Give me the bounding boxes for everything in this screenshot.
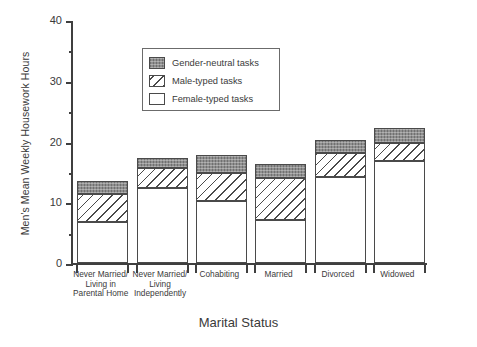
bar-stack[interactable] bbox=[374, 128, 425, 263]
legend-label: Female-typed tasks bbox=[172, 94, 253, 104]
bar-segment-female-typed[interactable] bbox=[315, 177, 366, 263]
legend-swatch-white-icon bbox=[149, 93, 165, 105]
bar-segment-female-typed[interactable] bbox=[255, 220, 306, 263]
y-tick-label: 10 bbox=[28, 196, 62, 208]
bar-stack[interactable] bbox=[137, 158, 188, 263]
category-label-line: Divorced bbox=[308, 270, 367, 280]
bar-segment-female-typed[interactable] bbox=[77, 222, 128, 263]
x-axis-category-label: Married bbox=[249, 270, 308, 280]
plot-area: Men's Mean Weekly Housework Hours 010203… bbox=[71, 22, 427, 265]
bar-segment-male-typed[interactable] bbox=[196, 173, 247, 201]
bar-segment-female-typed[interactable] bbox=[374, 161, 425, 263]
bar-stack[interactable] bbox=[196, 155, 247, 263]
legend-swatch-gray-stipple-icon bbox=[149, 57, 165, 69]
bar-segment-male-typed[interactable] bbox=[374, 143, 425, 161]
legend-swatch-diagonal-hatch-icon bbox=[149, 75, 165, 87]
bar-segment-gender-neutral[interactable] bbox=[255, 164, 306, 178]
bar-stack[interactable] bbox=[315, 140, 366, 263]
legend-item-gender-neutral: Gender-neutral tasks bbox=[149, 54, 273, 72]
chart-figure: Men's Mean Weekly Housework Hours 010203… bbox=[0, 0, 477, 347]
bar-stack[interactable] bbox=[77, 181, 128, 263]
x-axis-category-label: Never Married/LivingIndependently bbox=[130, 270, 189, 299]
category-label-line: Independently bbox=[130, 289, 189, 299]
bar-segment-gender-neutral[interactable] bbox=[196, 155, 247, 173]
category-label-line: Widowed bbox=[368, 270, 427, 280]
bar-segment-male-typed[interactable] bbox=[77, 194, 128, 222]
bar-stack[interactable] bbox=[255, 164, 306, 263]
y-tick-label: 30 bbox=[28, 75, 62, 87]
bar-segment-male-typed[interactable] bbox=[315, 153, 366, 177]
y-tick-label: 20 bbox=[28, 136, 62, 148]
x-axis-category-label: Cohabiting bbox=[190, 270, 249, 280]
chart-legend: Gender-neutral tasks Male-typed tasks Fe… bbox=[142, 48, 280, 111]
legend-label: Male-typed tasks bbox=[172, 76, 242, 86]
x-axis-category-label: Widowed bbox=[368, 270, 427, 280]
legend-item-male-typed: Male-typed tasks bbox=[149, 72, 273, 90]
bar-segment-male-typed[interactable] bbox=[137, 168, 188, 188]
bar-segment-gender-neutral[interactable] bbox=[137, 158, 188, 168]
y-tick-label: 0 bbox=[28, 257, 62, 269]
category-label-line: Cohabiting bbox=[190, 270, 249, 280]
legend-label: Gender-neutral tasks bbox=[172, 58, 259, 68]
bar-segment-gender-neutral[interactable] bbox=[374, 128, 425, 143]
x-axis-title: Marital Status bbox=[0, 315, 477, 330]
bar-segment-female-typed[interactable] bbox=[196, 201, 247, 263]
bar-segment-gender-neutral[interactable] bbox=[315, 140, 366, 153]
x-axis-category-label: Never Married/Living inParental Home bbox=[71, 270, 130, 299]
legend-item-female-typed: Female-typed tasks bbox=[149, 90, 273, 108]
x-axis-category-label: Divorced bbox=[308, 270, 367, 280]
y-tick-label: 40 bbox=[28, 14, 62, 26]
category-label-line: Married bbox=[249, 270, 308, 280]
bar-segment-male-typed[interactable] bbox=[255, 178, 306, 220]
bar-segment-female-typed[interactable] bbox=[137, 188, 188, 263]
category-label-line: Parental Home bbox=[71, 289, 130, 299]
bar-segment-gender-neutral[interactable] bbox=[77, 181, 128, 194]
